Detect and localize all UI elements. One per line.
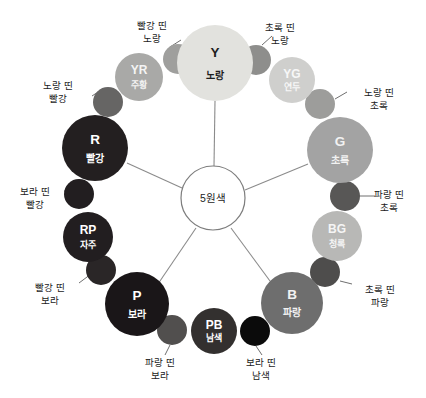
secondary-code-YR: YR: [131, 63, 148, 77]
annotation-purple-navy: 보라 띤남색: [246, 357, 276, 381]
hub-label: 5원색: [200, 192, 226, 204]
tertiary-node-yellow-red[interactable]: [93, 87, 123, 117]
secondary-name-BG: 청록: [329, 238, 345, 249]
spoke-Y: [214, 101, 215, 166]
secondary-name-RP: 자주: [80, 239, 96, 250]
color-wheel-canvas: YR주황YG연두BG청록RP자주PB남색 Y노랑R빨강G초록P보라B파랑 5원색…: [0, 0, 426, 398]
primary-code-R: R: [90, 132, 100, 147]
primary-code-Y: Y: [210, 45, 219, 60]
color-wheel-diagram: YR주황YG연두BG청록RP자주PB남색 Y노랑R빨강G초록P보라B파랑 5원색…: [0, 0, 426, 398]
primary-code-G: G: [335, 134, 346, 149]
primary-code-B: B: [287, 287, 297, 302]
annotation-blue-green: 파랑 띤초록: [374, 189, 404, 213]
secondary-code-YG: YG: [283, 67, 300, 81]
spoke-B: [231, 228, 270, 281]
secondary-code-RP: RP: [80, 223, 97, 237]
secondary-name-YR: 주황: [131, 79, 148, 90]
tertiary-node-purple-navy[interactable]: [240, 316, 270, 346]
primary-name-P: 보라: [128, 308, 147, 320]
primary-name-Y: 노랑: [206, 70, 225, 81]
primary-node-P[interactable]: [105, 272, 169, 336]
annotation-yellow-green: 노랑 띤초록: [364, 87, 394, 111]
hub-group: 5원색: [181, 166, 245, 230]
primary-node-G[interactable]: [307, 117, 373, 183]
secondary-name-YG: 연두: [284, 82, 300, 92]
primary-name-B: 파랑: [283, 306, 302, 318]
secondary-code-BG: BG: [328, 222, 346, 236]
spoke-R: [127, 163, 182, 188]
primary-name-G: 초록: [331, 154, 349, 166]
tertiary-node-blue-green[interactable]: [330, 181, 360, 211]
annotation-blue-purple: 파랑 띤보라: [145, 357, 175, 381]
leader-line-blue-purple: [165, 345, 170, 355]
primary-node-R[interactable]: [62, 115, 128, 181]
spoke-G: [245, 164, 308, 190]
tertiary-node-purple-red[interactable]: [64, 179, 94, 209]
annotation-red-purple: 빨강 띤보라: [35, 282, 65, 306]
primary-name-R: 빨강: [86, 152, 105, 164]
annotation-green-yellow: 초록 띤노랑: [265, 22, 295, 46]
leader-line-yellow-green: [335, 92, 347, 99]
secondary-code-PB: PB: [206, 318, 223, 332]
secondary-name-PB: 남색: [206, 332, 222, 343]
leader-line-green-blue: [340, 281, 352, 284]
annotation-red-yellow: 빨강 띤노랑: [137, 20, 167, 44]
primary-node-B[interactable]: [261, 272, 323, 334]
annotation-green-blue: 초록 띤파랑: [365, 284, 395, 308]
primary-node-Y[interactable]: [177, 25, 253, 101]
primary-code-P: P: [132, 288, 141, 303]
annotation-yellow-red: 노랑 띤빨강: [43, 80, 73, 104]
annotation-purple-red: 보라 띤빨강: [20, 186, 50, 210]
spoke-P: [160, 228, 196, 281]
leader-line-purple-navy: [256, 346, 262, 355]
